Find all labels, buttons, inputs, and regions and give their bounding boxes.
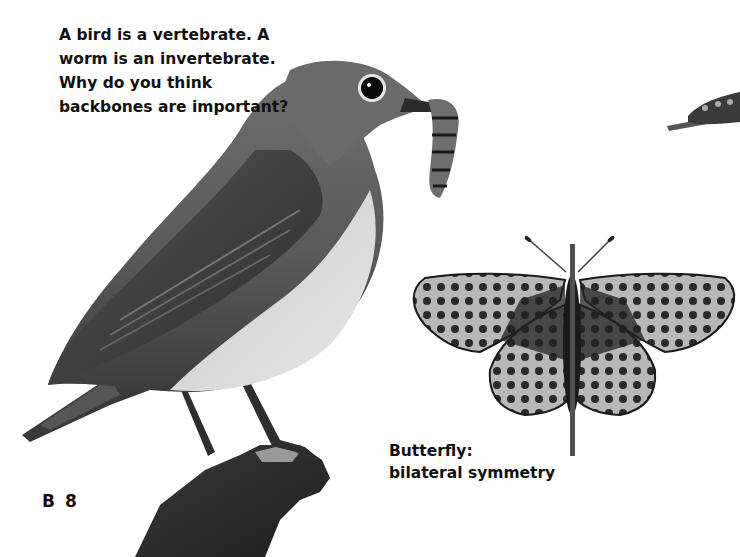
symmetry-line [570,244,575,456]
caption-line: Butterfly: [389,440,555,462]
worm-image [428,99,459,198]
question-line: Why do you think [59,71,329,95]
question-text: A bird is a vertebrate. A worm is an inv… [59,23,329,119]
question-line: backbones are important? [59,95,329,119]
caterpillar-image [667,92,740,131]
branch-image [135,445,330,557]
butterfly-image [414,235,735,456]
question-line: worm is an invertebrate. [59,47,329,71]
butterfly-caption: Butterfly: bilateral symmetry [389,440,555,484]
page-number: B 8 [42,491,79,511]
caption-line: bilateral symmetry [389,462,555,484]
question-line: A bird is a vertebrate. A [59,23,329,47]
